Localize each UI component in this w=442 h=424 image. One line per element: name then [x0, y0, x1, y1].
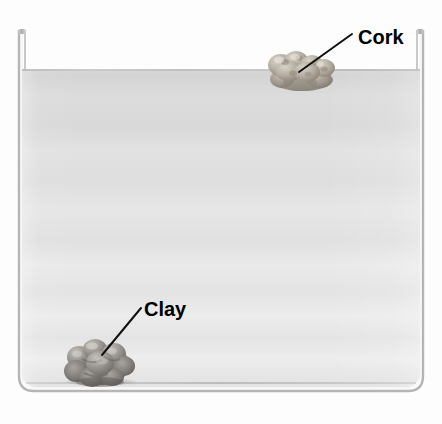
scan-artifact-ghost-text: [8, 1, 298, 24]
cork-shape: [262, 47, 342, 93]
clay-label: Clay: [144, 298, 186, 320]
clay-shape: [62, 335, 138, 387]
cork-object: [262, 47, 342, 93]
container-right-rim: [417, 29, 423, 34]
clay-object: [62, 335, 138, 387]
container-left-rim: [19, 29, 25, 34]
figure-scene: Cork Clay: [0, 0, 442, 424]
cork-label: Cork: [358, 26, 404, 48]
water-surface-line: [22, 69, 420, 71]
